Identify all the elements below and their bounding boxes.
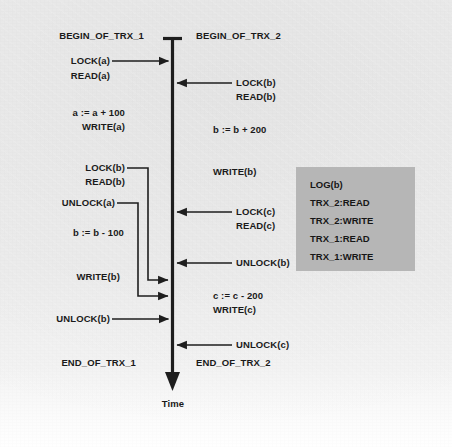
trx2-event-lock-b: LOCK(b) [236,77,346,88]
connector-lock-b-deferred [127,168,168,280]
trx2-begin-label: BEGIN_OF_TRX_2 [196,30,336,41]
trx2-event-lock-c: LOCK(c) [236,206,346,217]
trx1-event-unlock-a: UNLOCK(a) [0,197,115,208]
trx2-event-assign-b: b := b + 200 [213,124,333,135]
connector-unlock-a-deferred [117,203,168,296]
trx1-event-lock-b: LOCK(b) [0,162,125,173]
trx1-event-assign-a: a := a + 100 [0,107,125,118]
trx1-end-label: END_OF_TRX_1 [0,357,136,368]
trx2-event-unlock-c: UNLOCK(c) [236,339,346,350]
trx1-event-write-b: WRITE(b) [0,271,120,282]
trx1-deferred-connectors [117,168,168,296]
log-panel: LOG(b) TRX_2:READ TRX_2:WRITE TRX_1:READ… [296,167,415,271]
trx2-event-assign-c: c := c - 200 [213,290,333,301]
trx2-event-unlock-b: UNLOCK(b) [236,257,346,268]
trx1-event-read-b: READ(b) [0,176,125,187]
trx2-event-read-c: READ(c) [236,220,346,231]
trx1-event-write-a: WRITE(a) [0,121,125,132]
time-axis-label: Time [142,398,204,409]
trx2-end-label: END_OF_TRX_2 [196,357,336,368]
trx1-event-assign-b: b := b - 100 [0,227,124,238]
trx1-begin-label: BEGIN_OF_TRX_1 [0,30,144,41]
trx1-event-lock-a: LOCK(a) [0,55,110,66]
time-axis [163,39,182,392]
time-axis-arrowhead [165,372,180,391]
trx2-event-write-c: WRITE(c) [213,304,333,315]
trx2-event-read-b: READ(b) [236,91,346,102]
log-entry-3: TRX_1:READ [310,233,370,244]
trx1-event-unlock-b: UNLOCK(b) [0,313,110,324]
trx2-event-write-b: WRITE(b) [213,166,323,177]
diagram-canvas: LOG(b) TRX_2:READ TRX_2:WRITE TRX_1:READ… [0,0,452,447]
trx1-event-read-a: READ(a) [0,70,110,81]
log-entry-0: LOG(b) [310,179,343,190]
